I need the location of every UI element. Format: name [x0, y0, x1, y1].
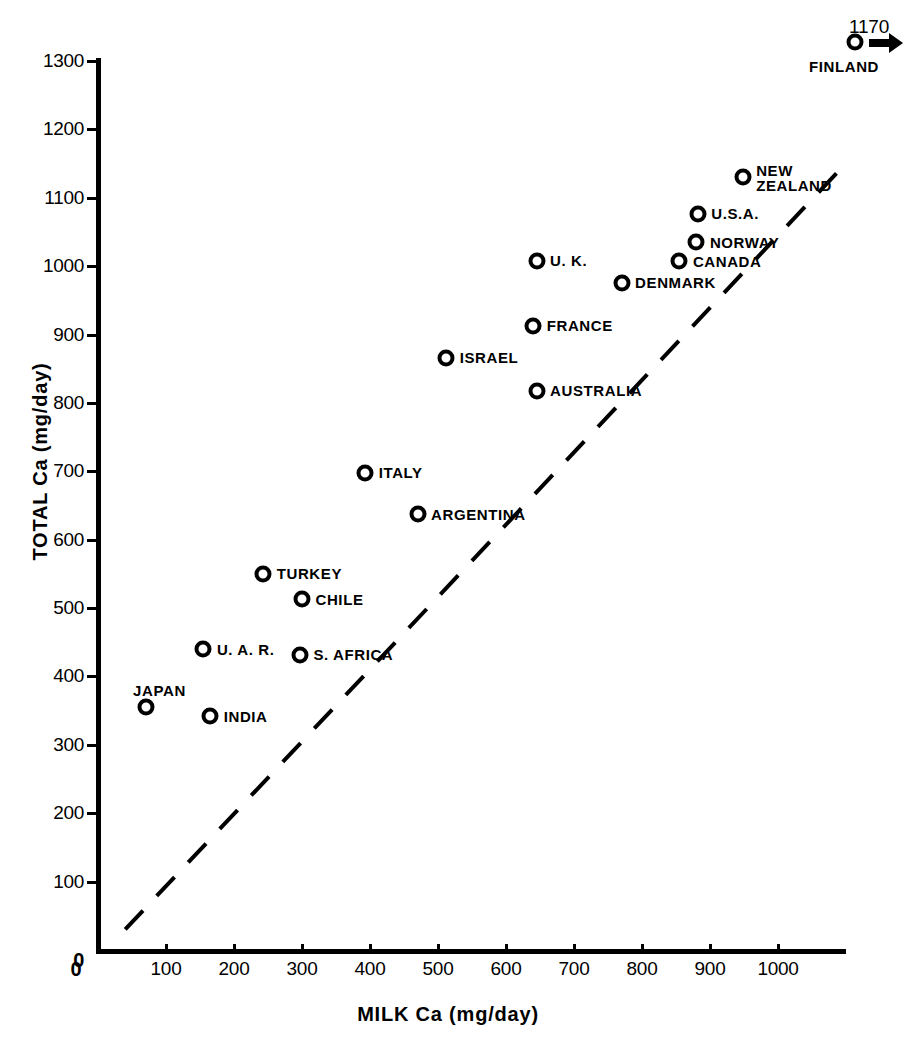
x-tick-mark — [301, 944, 304, 951]
finland-marker — [847, 34, 864, 51]
data-point: ISRAEL — [438, 349, 455, 366]
point-marker — [357, 464, 374, 481]
data-point: FRANCE — [525, 317, 542, 334]
point-label: ISRAEL — [460, 350, 519, 365]
x-tick-mark — [233, 944, 236, 951]
data-point: DENMARK — [613, 274, 630, 291]
data-point: CHILE — [294, 591, 311, 608]
y-tick-mark — [87, 675, 97, 678]
point-label: U. A. R. — [217, 641, 275, 656]
data-point: NORWAY — [688, 234, 705, 251]
y-axis-line — [96, 58, 101, 954]
x-tick-mark — [369, 944, 372, 951]
point-marker — [294, 591, 311, 608]
x-tick-mark — [573, 944, 576, 951]
data-point: JAPAN — [137, 699, 154, 716]
point-label: S. AFRICA — [313, 647, 393, 662]
x-tick-mark — [437, 944, 440, 951]
y-tick-mark — [87, 128, 97, 131]
data-point: AUSTRALIA — [528, 382, 545, 399]
x-tick-label: 900 — [680, 958, 740, 980]
x-tick-label: 300 — [272, 958, 332, 980]
y-tick-mark — [87, 539, 97, 542]
data-point: TURKEY — [255, 565, 272, 582]
point-marker — [688, 234, 705, 251]
point-label: INDIA — [224, 708, 268, 723]
data-point: CANADA — [671, 253, 688, 270]
point-label: NEW ZEALAND — [756, 162, 832, 192]
point-marker — [528, 252, 545, 269]
data-point: ITALY — [357, 464, 374, 481]
point-label: U. K. — [550, 253, 587, 268]
x-tick-mark — [165, 944, 168, 951]
x-tick-label: 200 — [204, 958, 264, 980]
y-tick-label: 900 — [32, 324, 84, 346]
data-point: U. A. R. — [195, 641, 212, 658]
x-tick-mark — [641, 944, 644, 951]
y-tick-label: 1000 — [32, 255, 84, 277]
x-tick-label: 0 — [46, 958, 106, 981]
point-marker — [409, 506, 426, 523]
x-tick-label: 700 — [544, 958, 604, 980]
point-marker — [195, 641, 212, 658]
y-tick-mark — [87, 60, 97, 63]
y-tick-mark — [87, 334, 97, 337]
y-tick-label: 300 — [32, 734, 84, 756]
point-label: FRANCE — [547, 318, 613, 333]
point-marker — [734, 169, 751, 186]
x-tick-mark — [777, 944, 780, 951]
x-tick-label: 400 — [340, 958, 400, 980]
y-tick-mark — [87, 402, 97, 405]
data-point: U. K. — [528, 252, 545, 269]
point-marker — [525, 317, 542, 334]
point-marker — [671, 253, 688, 270]
data-point: ARGENTINA — [409, 506, 426, 523]
x-tick-mark — [709, 944, 712, 951]
x-tick-label: 1000 — [748, 958, 808, 980]
point-marker — [137, 699, 154, 716]
y-tick-label: 400 — [32, 665, 84, 687]
point-label: JAPAN — [133, 683, 186, 698]
point-marker — [613, 274, 630, 291]
point-marker — [528, 382, 545, 399]
x-tick-label: 600 — [476, 958, 536, 980]
point-label: CANADA — [693, 254, 762, 269]
y-tick-mark — [87, 812, 97, 815]
y-tick-mark — [87, 470, 97, 473]
x-tick-label: 100 — [136, 958, 196, 980]
y-tick-mark — [87, 265, 97, 268]
y-tick-label: 1200 — [32, 118, 84, 140]
y-tick-label: 200 — [32, 802, 84, 824]
point-marker — [291, 646, 308, 663]
point-label: TURKEY — [277, 566, 342, 581]
x-tick-label: 500 — [408, 958, 468, 980]
point-label: CHILE — [316, 592, 364, 607]
y-tick-mark — [87, 197, 97, 200]
point-label: NORWAY — [710, 235, 779, 250]
y-tick-mark — [87, 744, 97, 747]
y-tick-label: 1100 — [32, 187, 84, 209]
data-point: U.S.A. — [689, 205, 706, 222]
data-point: INDIA — [202, 708, 219, 725]
data-point: S. AFRICA — [291, 646, 308, 663]
point-marker — [202, 708, 219, 725]
arrow-right-icon — [869, 33, 903, 53]
x-tick-label: 800 — [612, 958, 672, 980]
point-label: AUSTRALIA — [550, 383, 642, 398]
point-marker — [255, 565, 272, 582]
point-marker — [689, 205, 706, 222]
point-label: DENMARK — [635, 275, 716, 290]
point-marker — [438, 349, 455, 366]
x-axis-line — [96, 949, 846, 954]
data-point: NEW ZEALAND — [734, 169, 751, 186]
x-tick-mark — [505, 944, 508, 951]
point-label: ITALY — [379, 465, 423, 480]
y-tick-mark — [87, 881, 97, 884]
y-tick-label: 500 — [32, 597, 84, 619]
y-axis-title: TOTAL Ca (mg/day) — [29, 352, 52, 572]
y-tick-label: 100 — [32, 871, 84, 893]
point-label: ARGENTINA — [431, 507, 526, 522]
point-label: U.S.A. — [711, 206, 759, 221]
x-axis-title: MILK Ca (mg/day) — [0, 1003, 896, 1026]
